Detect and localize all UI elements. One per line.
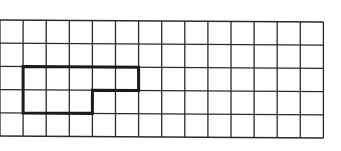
grid-lines xyxy=(0,20,323,138)
grid-diagram xyxy=(0,0,341,151)
